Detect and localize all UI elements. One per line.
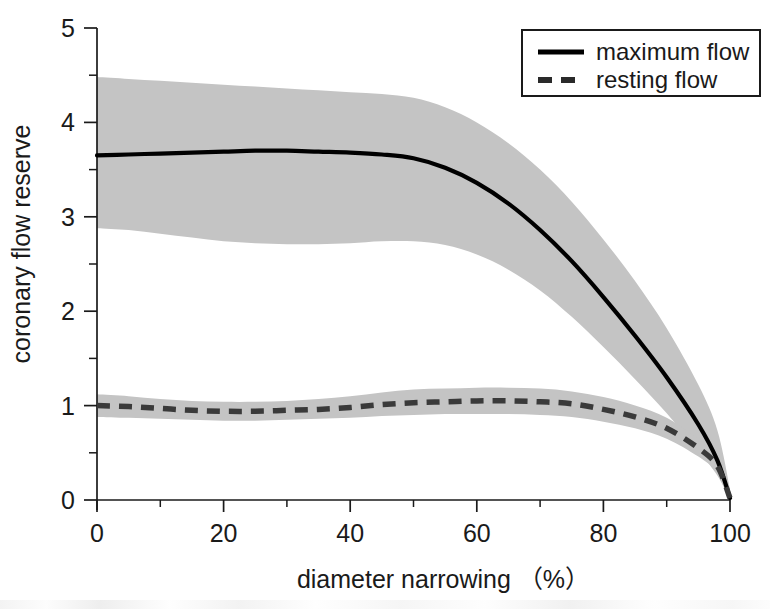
x-axis-title: diameter narrowing （%） bbox=[297, 565, 590, 593]
y-tick-label: 2 bbox=[61, 297, 75, 325]
x-tick-label: 0 bbox=[90, 519, 104, 547]
y-tick-label: 3 bbox=[61, 203, 75, 231]
y-tick-label: 1 bbox=[61, 392, 75, 420]
legend-label: resting flow bbox=[596, 66, 718, 93]
chart-canvas: 020406080100012345 diameter narrowing （%… bbox=[0, 0, 770, 615]
y-axis-title: coronary flow reserve bbox=[7, 125, 35, 364]
legend-label: maximum flow bbox=[596, 38, 750, 65]
x-tick-label: 60 bbox=[463, 519, 491, 547]
y-tick-label: 5 bbox=[61, 14, 75, 42]
coronary-flow-reserve-chart: 020406080100012345 diameter narrowing （%… bbox=[0, 0, 770, 615]
legend-group[interactable]: maximum flowresting flow bbox=[522, 30, 760, 96]
x-tick-label: 100 bbox=[709, 519, 751, 547]
y-tick-label: 0 bbox=[61, 486, 75, 514]
x-tick-label: 40 bbox=[336, 519, 364, 547]
x-tick-label: 20 bbox=[210, 519, 238, 547]
x-tick-label: 80 bbox=[589, 519, 617, 547]
y-tick-label: 4 bbox=[61, 108, 75, 136]
